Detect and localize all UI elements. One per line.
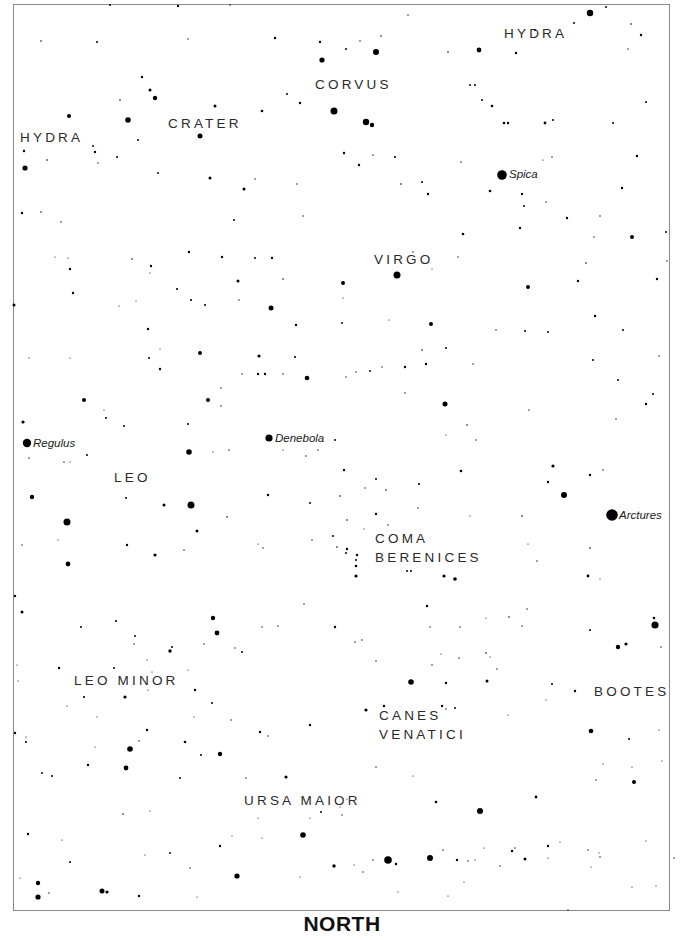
star	[309, 724, 311, 726]
star	[447, 51, 449, 53]
star	[388, 319, 389, 320]
star	[573, 22, 575, 24]
star	[673, 857, 674, 858]
star	[122, 813, 124, 815]
star	[131, 258, 133, 260]
star	[163, 504, 166, 507]
star	[400, 183, 402, 185]
star	[404, 392, 405, 393]
star	[617, 379, 619, 381]
star	[599, 578, 600, 579]
star	[395, 863, 397, 865]
star	[547, 857, 548, 858]
star	[658, 355, 659, 356]
star	[125, 497, 127, 499]
star	[105, 417, 107, 419]
star	[515, 52, 517, 54]
star	[341, 281, 345, 285]
star	[134, 635, 136, 637]
star	[198, 134, 203, 139]
star	[60, 221, 61, 222]
star	[628, 738, 630, 740]
star	[305, 455, 306, 456]
star	[425, 363, 427, 365]
star	[41, 772, 43, 774]
star	[526, 608, 527, 609]
star	[342, 297, 343, 298]
star-label-arctures: Arctures	[619, 509, 662, 522]
star	[491, 105, 494, 108]
star	[511, 850, 513, 852]
star	[69, 861, 71, 863]
star	[507, 714, 508, 715]
star	[653, 617, 656, 620]
star	[67, 257, 68, 258]
star	[25, 741, 27, 743]
star	[25, 736, 26, 737]
star	[507, 122, 509, 124]
star	[655, 885, 656, 886]
star	[241, 651, 243, 653]
star	[445, 434, 446, 435]
star	[274, 37, 276, 39]
star	[17, 680, 18, 681]
star	[631, 886, 632, 887]
star	[58, 667, 60, 669]
star	[212, 451, 213, 452]
star	[485, 652, 487, 654]
star	[303, 603, 304, 604]
star	[381, 366, 382, 367]
star	[188, 502, 195, 509]
star	[218, 752, 222, 756]
star	[282, 278, 284, 280]
star	[447, 895, 448, 896]
star	[189, 867, 190, 868]
star	[188, 251, 190, 253]
star	[147, 328, 149, 330]
star	[257, 354, 260, 357]
star	[183, 549, 184, 550]
star	[622, 329, 624, 331]
star	[397, 891, 398, 892]
star	[146, 729, 148, 731]
star	[481, 99, 483, 101]
constellation-label-leo: LEO	[114, 469, 151, 488]
star	[387, 524, 388, 525]
star	[442, 574, 445, 577]
star	[66, 562, 71, 567]
star	[489, 656, 490, 657]
star	[66, 705, 67, 706]
star	[359, 40, 360, 41]
constellation-label-hydra-left: HYDRA	[20, 129, 83, 148]
star	[261, 110, 264, 113]
star	[115, 620, 117, 622]
star	[149, 272, 150, 273]
star	[521, 515, 523, 517]
star	[545, 699, 546, 700]
star	[524, 330, 526, 332]
star	[83, 696, 85, 698]
star	[19, 877, 20, 878]
star	[92, 145, 94, 147]
star	[113, 667, 115, 669]
star	[585, 262, 587, 264]
star	[220, 387, 221, 388]
constellation-label-leo-minor: LEO MINOR	[74, 672, 179, 691]
star	[427, 193, 429, 195]
star	[35, 894, 40, 899]
star	[632, 780, 636, 784]
star	[602, 469, 603, 470]
star	[100, 889, 105, 894]
star-label-spica: Spica	[509, 168, 538, 181]
star	[125, 117, 131, 123]
star	[133, 643, 134, 644]
star	[21, 212, 23, 214]
star	[602, 763, 603, 764]
star	[587, 10, 593, 16]
star	[146, 659, 147, 660]
star	[477, 808, 483, 814]
star	[474, 84, 476, 86]
star	[126, 544, 128, 546]
star	[508, 616, 510, 618]
star	[660, 646, 661, 647]
